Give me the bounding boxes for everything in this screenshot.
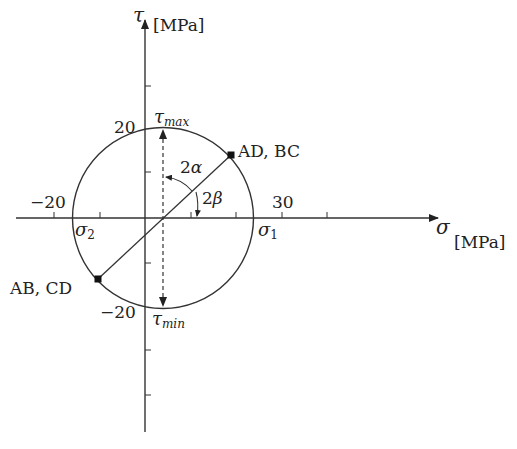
sigma-axis-unit: [MPa] [454,232,505,252]
sigma-tick-label-neg20: −20 [30,192,66,212]
two-beta-label: 2β [202,188,223,208]
sigma2-label: σ2 [75,219,95,242]
two-beta-arc [196,192,198,216]
sigma1-label: σ1 [258,219,278,242]
two-alpha-label: 2α [180,157,203,177]
point-ab-cd-marker [95,276,102,283]
tau-min-arrowhead [159,297,167,307]
sigma-tick-label-30: 30 [272,192,294,212]
diameter-line [98,155,231,279]
tau-axis-ticks [145,86,151,395]
point-ad-bc-label: AD, BC [237,141,300,161]
point-ad-bc-marker [228,152,235,159]
tau-tick-label-neg20: −20 [100,302,136,322]
tau-axis-unit: [MPa] [153,15,204,35]
mohr-circle-diagram: τ [MPa] σ [MPa] −20 30 20 −20 AD, BC AB,… [0,0,517,449]
tau-min-label: τmin [152,308,185,331]
sigma-axis-symbol: σ [436,215,451,239]
tau-tick-label-20: 20 [114,117,136,137]
tau-axis [145,20,151,432]
tau-axis-symbol: τ [133,3,145,27]
tau-max-label: τmax [154,106,190,129]
two-alpha-arc [166,177,192,191]
point-ab-cd-label: AB, CD [9,278,72,298]
sigma-axis [16,212,438,218]
sigma-axis-ticks [54,212,327,218]
tau-max-arrowhead [159,129,167,139]
